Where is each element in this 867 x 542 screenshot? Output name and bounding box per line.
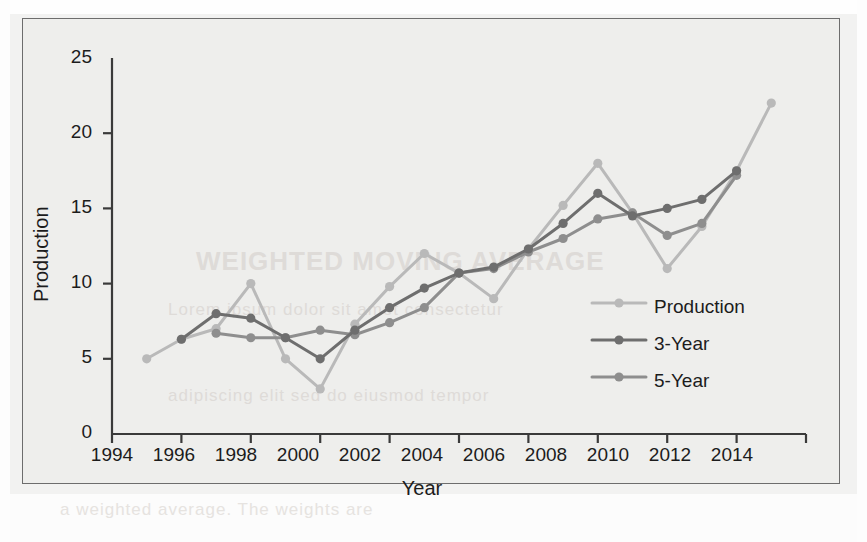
paper-edge-right xyxy=(857,0,867,542)
ghost-heading: WEIGHTED MOVING AVERAGE xyxy=(196,246,605,277)
ghost-text-line-1: Lorem ipsum dolor sit amet consectetur xyxy=(168,300,504,320)
y-tick-label-15: 15 xyxy=(48,196,92,218)
x-tick-label-2014: 2014 xyxy=(696,444,768,466)
ghost-text-line-3: a weighted average. The weights are xyxy=(60,500,373,520)
y-tick-label-5: 5 xyxy=(48,346,92,368)
x-axis-title: Year xyxy=(380,477,464,500)
legend-label-3-year: 3-Year xyxy=(654,333,709,355)
y-tick-label-10: 10 xyxy=(48,271,92,293)
y-axis-title: Production xyxy=(30,206,53,302)
y-tick-label-0: 0 xyxy=(48,421,92,443)
ghost-text-line-2: adipiscing elit sed do eiusmod tempor xyxy=(168,386,489,406)
y-tick-label-20: 20 xyxy=(48,121,92,143)
legend-label-production: Production xyxy=(654,296,745,318)
paper-edge-left xyxy=(0,0,10,542)
figure-container: WEIGHTED MOVING AVERAGE Lorem ipsum dolo… xyxy=(0,0,867,542)
y-tick-label-25: 25 xyxy=(48,46,92,68)
paper-edge-top xyxy=(0,0,867,14)
legend-label-5-year: 5-Year xyxy=(654,370,709,392)
